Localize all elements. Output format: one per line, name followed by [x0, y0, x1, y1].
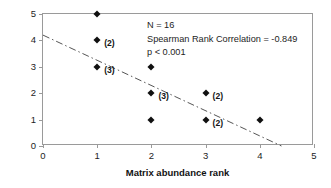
y-tick-label-1: 1 [31, 115, 36, 125]
data-point-count-label: (2) [213, 92, 224, 101]
y-tick-label-5: 5 [31, 9, 36, 19]
data-point [148, 63, 155, 70]
x-tick-label-1: 1 [95, 151, 100, 161]
x-tick-label-4: 4 [257, 151, 262, 161]
data-point-count-label: (3) [104, 66, 115, 75]
scatter-plot-figure: Extinction proneness rank Matrix abundan… [0, 0, 331, 188]
data-point [202, 116, 209, 123]
y-tick-label-3: 3 [31, 62, 36, 72]
data-point [94, 37, 101, 44]
x-tick-label-2: 2 [149, 151, 154, 161]
x-tick-label-3: 3 [203, 151, 208, 161]
x-tick-label-0: 0 [40, 151, 45, 161]
x-axis-title: Matrix abundance rank [42, 167, 313, 179]
data-point-count-label: (2) [213, 118, 224, 127]
x-tick-label-5: 5 [311, 151, 316, 161]
data-point [202, 90, 209, 97]
y-tick-label-0: 0 [31, 141, 36, 151]
annotation-pvalue: p < 0.001 [147, 46, 297, 60]
annotation-sample-size: N = 16 [147, 19, 297, 33]
annotation-correlation: Spearman Rank Correlation = -0.849 [147, 33, 297, 47]
y-tick-label-4: 4 [31, 36, 36, 46]
data-point-count-label: (3) [158, 92, 169, 101]
y-tick-label-2: 2 [31, 88, 36, 98]
data-point [94, 63, 101, 70]
data-point [148, 90, 155, 97]
data-point [256, 116, 263, 123]
data-point [94, 10, 101, 17]
statistics-annotation: N = 16 Spearman Rank Correlation = -0.84… [147, 19, 297, 60]
data-point-count-label: (2) [104, 39, 115, 48]
plot-area: 0 1 2 3 4 5 0 1 2 3 4 5 (2)(3)(3)(2)(2) … [42, 13, 313, 145]
data-point [148, 116, 155, 123]
